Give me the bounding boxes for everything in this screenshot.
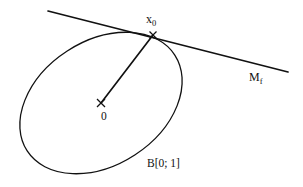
hyperplane-label-base: M [249, 70, 260, 84]
shapes-group [0, 3, 288, 187]
radius-vector [101, 35, 153, 103]
origin-marker [97, 99, 105, 107]
tangent-point-label-subscript: 0 [152, 18, 156, 28]
origin-label: 0 [101, 111, 107, 123]
ball-label: B[0; 1] [147, 158, 180, 170]
hyperplane-label-subscript: f [260, 76, 263, 86]
figure-container: x0 Mf 0 B[0; 1] [0, 0, 303, 187]
tangent-point-label: x0 [146, 13, 156, 27]
hyperplane-label: Mf [249, 71, 263, 85]
